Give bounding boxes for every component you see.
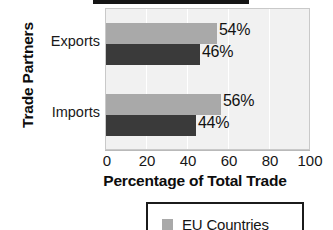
- legend-item-eu-countries: EU Countries: [162, 216, 269, 230]
- category-label-exports: Exports: [32, 33, 100, 49]
- title-banner: [93, 0, 249, 4]
- x-tick-label-group: 0 20 40 60 80 100: [105, 152, 310, 172]
- value-label-imports-eu: 56%: [223, 92, 254, 110]
- chart-figure: Trade Partners Exports Imports 54% 46% 5…: [0, 0, 333, 230]
- legend: EU Countries: [146, 202, 304, 230]
- plot-area: 54% 46% 56% 44%: [105, 8, 310, 150]
- x-tick-100: 100: [297, 152, 322, 169]
- value-label-exports-eu: 54%: [219, 21, 250, 39]
- x-tick-80: 80: [262, 152, 279, 169]
- gridline-80: [269, 9, 270, 149]
- value-label-exports-other: 46%: [202, 43, 233, 61]
- legend-swatch-icon: [162, 219, 173, 230]
- x-tick-40: 40: [180, 152, 197, 169]
- bar-exports-eu: [106, 23, 217, 44]
- x-tick-0: 0: [103, 152, 111, 169]
- value-label-imports-other: 44%: [198, 114, 229, 132]
- legend-label-eu-countries: EU Countries: [182, 216, 269, 230]
- bar-exports-other: [106, 44, 200, 65]
- category-label-group: Exports Imports: [30, 0, 100, 160]
- x-tick-20: 20: [139, 152, 156, 169]
- x-tick-60: 60: [221, 152, 238, 169]
- x-axis-title: Percentage of Total Trade: [60, 172, 330, 190]
- bar-imports-other: [106, 115, 196, 136]
- x-axis-line: [105, 150, 310, 151]
- category-label-imports: Imports: [32, 104, 100, 120]
- bar-imports-eu: [106, 94, 221, 115]
